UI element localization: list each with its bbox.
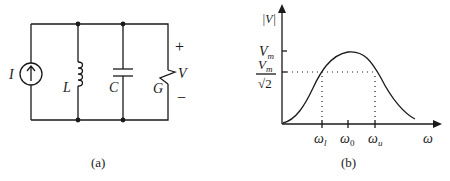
xtick-w0: ω0 [340, 131, 355, 148]
label-inductor: L [62, 80, 71, 95]
circuit-panel: I L C G V + − (a) [8, 22, 188, 170]
label-minus: − [177, 89, 186, 106]
xtick-wl: ωl [314, 131, 327, 148]
caption-a: (a) [91, 155, 105, 170]
x-axis-label: ω [423, 131, 433, 146]
x-axis-arrow-icon [433, 120, 442, 128]
figure-canvas: I L C G V + − (a) |V| Vm Vm √2 ωl [0, 0, 450, 181]
label-current-source: I [8, 67, 15, 82]
junction-dot [76, 22, 81, 27]
junction-dot [76, 118, 81, 123]
label-voltage: V [178, 66, 188, 81]
label-capacitor: C [109, 80, 119, 95]
current-source-icon [20, 63, 42, 85]
caption-b: (b) [341, 155, 356, 170]
capacitor-icon [113, 69, 133, 76]
junction-dot [121, 22, 126, 27]
label-conductance: G [153, 81, 163, 96]
inductor-icon [78, 62, 83, 86]
xtick-wu: ωu [368, 131, 383, 148]
bottom-wire [31, 84, 168, 120]
top-wire [31, 24, 168, 70]
y-axis-label: |V| [262, 12, 276, 26]
label-plus: + [175, 38, 184, 55]
response-plot: |V| Vm Vm √2 ωl ω0 ωu ω (b) [256, 4, 442, 170]
junction-dot [121, 118, 126, 123]
response-curve [283, 52, 415, 123]
y-axis-arrow-icon [278, 4, 286, 13]
ytick-half-den: √2 [258, 76, 272, 91]
